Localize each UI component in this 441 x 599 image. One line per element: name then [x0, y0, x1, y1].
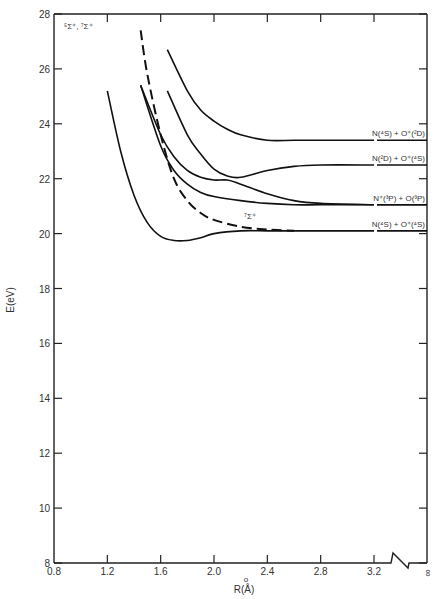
curve-n-2d-o-4s- — [167, 91, 374, 178]
x-tick-label: 2.8 — [314, 566, 328, 577]
curve-n-3p-o-3p-lower- — [141, 85, 374, 205]
y-tick-label: 10 — [39, 503, 51, 514]
top-left-annotation: ⁵Σ⁺, ⁷Σ⁺ — [64, 22, 93, 31]
y-tick-label: 16 — [39, 338, 51, 349]
y-tick-label: 12 — [39, 448, 51, 459]
dashed-curve-annotation: ⁷Σ⁺ — [244, 212, 256, 221]
x-tick-label: 0.8 — [47, 566, 61, 577]
asymptote-label: N(²D) + O⁺(⁴S) — [372, 154, 425, 163]
asymptote-label: N(⁴S) + O⁺(⁴S) — [372, 220, 426, 229]
y-tick-label: 18 — [39, 284, 51, 295]
x-tick-label: 2.0 — [207, 566, 221, 577]
potential-energy-chart: 810121416182022242628 0.81.21.62.02.42.8… — [0, 0, 441, 599]
y-axis-title: E(eV) — [5, 287, 16, 313]
curve-n-4s-o-4s- — [107, 91, 374, 241]
x-tick-label: 1.6 — [154, 566, 168, 577]
y-tick-label: 26 — [39, 64, 51, 75]
x-axis-ticks: 0.81.21.62.02.42.83.2∞ — [47, 14, 434, 577]
y-tick-label: 24 — [39, 119, 51, 130]
angstrom-ring-mark: o — [244, 575, 249, 584]
y-tick-label: 22 — [39, 174, 51, 185]
asymptote-label: N⁺(³P) + O(³P) — [373, 194, 425, 203]
y-tick-label: 20 — [39, 229, 51, 240]
x-tick-label: 2.4 — [260, 566, 274, 577]
y-axis-ticks: 810121416182022242628 — [39, 9, 427, 569]
asymptote-label: N(⁴S) + O⁺(²D) — [372, 129, 425, 138]
asymptote-labels: N(⁴S) + O⁺(²D)N(²D) + O⁺(⁴S)N⁺(³P) + O(³… — [372, 129, 426, 229]
plot-frame — [54, 14, 427, 568]
x-axis-title: R(Å) — [234, 583, 255, 595]
curve-n-3p-o-3p- — [141, 85, 374, 204]
x-tick-label: 3.2 — [367, 566, 381, 577]
curve-7- — [141, 30, 294, 230]
y-tick-label: 28 — [39, 9, 51, 20]
curve-n-4s-o-2d- — [167, 50, 374, 141]
x-tick-label: 1.2 — [100, 566, 114, 577]
x-tick-label: ∞ — [423, 569, 434, 576]
y-tick-label: 14 — [39, 393, 51, 404]
